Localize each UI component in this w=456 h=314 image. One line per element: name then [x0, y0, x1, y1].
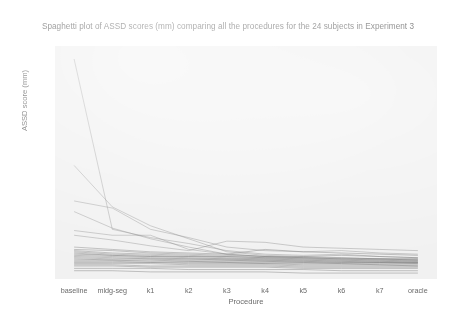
subject-line: [74, 59, 418, 258]
x-tick-label: oracle: [408, 286, 428, 295]
subject-line: [74, 212, 418, 261]
subject-line: [74, 235, 418, 250]
subject-line: [74, 268, 418, 270]
subject-line: [74, 201, 418, 254]
y-axis-label: ASSD score (mm): [20, 31, 29, 171]
subject-line: [74, 271, 418, 273]
x-tick-label: k2: [185, 286, 193, 295]
x-tick-label: mldg-seg: [98, 286, 128, 295]
x-tick-label: k6: [338, 286, 346, 295]
x-axis-label: Procedure: [55, 297, 437, 306]
subject-line: [74, 165, 418, 258]
x-tick-label: baseline: [61, 286, 88, 295]
x-tick-label: k3: [223, 286, 231, 295]
plot-area: [55, 46, 437, 279]
spaghetti-lines: [55, 46, 437, 279]
x-tick-label: k7: [376, 286, 384, 295]
x-tick-label: k4: [261, 286, 269, 295]
x-tick-label: k1: [147, 286, 155, 295]
chart-title: Spaghetti plot of ASSD scores (mm) compa…: [0, 22, 456, 31]
chart-figure: Spaghetti plot of ASSD scores (mm) compa…: [0, 0, 456, 314]
x-tick-label: k5: [300, 286, 308, 295]
